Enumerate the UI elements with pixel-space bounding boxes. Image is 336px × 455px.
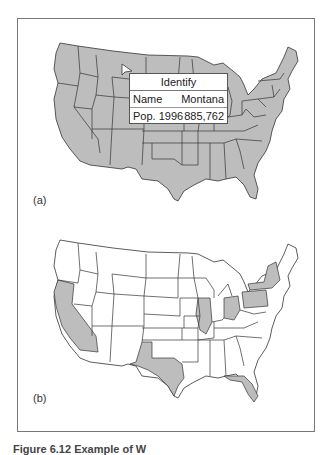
field-value: 885,762 [184, 108, 224, 124]
us-map-b [18, 226, 316, 433]
identify-popup: Identify Name Montana Pop. 1996 885,762 [129, 73, 228, 124]
figure-frame: Identify Name Montana Pop. 1996 885,762 … [17, 18, 315, 432]
panel-label-b: (b) [33, 392, 46, 404]
figure-caption: Figure 6.12 Example of W [13, 443, 146, 455]
field-label: Name [133, 91, 162, 107]
panel-a: Identify Name Montana Pop. 1996 885,762 … [18, 19, 316, 226]
panel-label-a: (a) [33, 194, 46, 206]
identify-row-name: Name Montana [130, 91, 227, 107]
identify-title: Identify [130, 74, 227, 91]
identify-row-population: Pop. 1996 885,762 [130, 107, 227, 124]
field-value: Montana [181, 91, 224, 107]
field-label: Pop. 1996 [133, 108, 183, 124]
state-pennsylvania [242, 290, 268, 308]
panel-b: (b) [18, 226, 316, 433]
